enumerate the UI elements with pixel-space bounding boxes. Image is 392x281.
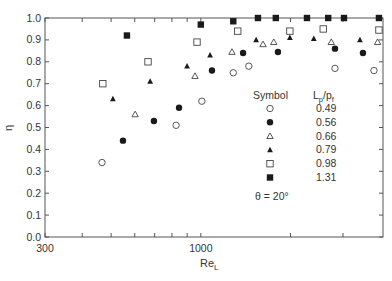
open-square-marker <box>320 26 326 32</box>
legend: Symbol Lp/pf 0.490.560.660.790.981.31 θ … <box>253 89 337 202</box>
filled-triangle-marker <box>253 37 259 42</box>
y-tick-label: 0.4 <box>26 143 41 155</box>
filled-circle-marker <box>120 137 126 143</box>
open-square-marker <box>100 81 106 87</box>
legend-value: 0.49 <box>316 102 337 114</box>
legend-header-symbol: Symbol <box>253 89 288 101</box>
y-tick-label: 0.5 <box>26 121 41 133</box>
open-circle-marker <box>246 63 252 69</box>
x-tick-label: 300 <box>36 242 54 254</box>
filled-square-marker <box>198 21 204 27</box>
filled-triangle-marker <box>287 35 293 40</box>
filled-circle-marker <box>151 118 157 124</box>
filled-square-marker <box>376 15 382 21</box>
filled-triangle-marker <box>147 78 153 83</box>
open-square-marker <box>376 27 382 33</box>
y-tick-label: 0.7 <box>26 77 41 89</box>
filled-triangle-marker <box>110 96 116 101</box>
open-circle-marker <box>230 70 236 76</box>
open-circle-marker <box>99 159 105 165</box>
open-triangle-marker <box>192 73 198 79</box>
x-tick-label: 1000 <box>189 242 213 254</box>
filled-circle-marker <box>240 50 246 56</box>
open-triangle-marker <box>132 111 138 117</box>
open-square-marker <box>287 28 293 34</box>
filled-circle-marker <box>209 67 215 73</box>
legend-filled-square-icon <box>267 174 273 180</box>
y-tick-label: 0.0 <box>26 231 41 243</box>
open-circle-marker <box>332 65 338 71</box>
open-triangle-marker <box>260 41 266 47</box>
legend-value: 0.66 <box>316 130 337 142</box>
filled-triangle-marker <box>311 36 317 41</box>
legend-filled-triangle-icon <box>267 147 273 152</box>
open-circle-marker <box>199 98 205 104</box>
legend-filled-circle-icon <box>267 119 273 125</box>
filled-triangle-marker <box>357 37 363 42</box>
data-points <box>99 15 382 166</box>
open-square-marker <box>145 59 151 65</box>
legend-open-square-icon <box>267 161 273 167</box>
x-axis-label: ReL <box>200 257 219 272</box>
y-tick-label: 1.0 <box>26 12 41 24</box>
legend-value: 0.56 <box>316 116 337 128</box>
open-circle-marker <box>173 122 179 128</box>
filled-square-marker <box>273 15 279 21</box>
legend-open-triangle-icon <box>267 133 273 139</box>
filled-circle-marker <box>360 50 366 56</box>
filled-circle-marker <box>275 49 281 55</box>
legend-open-circle-icon <box>267 105 273 111</box>
filled-circle-marker <box>332 45 338 51</box>
y-tick-label: 0.2 <box>26 187 41 199</box>
y-axis-label: η <box>2 125 14 131</box>
filled-square-marker <box>230 18 236 24</box>
legend-value: 1.31 <box>316 171 337 183</box>
open-square-marker <box>235 28 241 34</box>
filled-circle-marker <box>176 105 182 111</box>
legend-value: 0.79 <box>316 143 337 155</box>
y-tick-label: 0.3 <box>26 165 41 177</box>
theta-annotation: θ = 20° <box>255 190 289 202</box>
open-square-marker <box>194 39 200 45</box>
filled-triangle-marker <box>207 52 213 57</box>
open-triangle-marker <box>229 49 235 55</box>
open-triangle-marker <box>271 39 277 45</box>
filled-square-marker <box>325 15 331 21</box>
y-tick-label: 0.8 <box>26 55 41 67</box>
open-circle-marker <box>371 67 377 73</box>
y-tick-label: 0.1 <box>26 209 41 221</box>
filled-square-marker <box>341 15 347 21</box>
filled-square-marker <box>304 15 310 21</box>
filled-square-marker <box>255 15 261 21</box>
open-triangle-marker <box>328 39 334 45</box>
legend-value: 0.98 <box>316 157 337 169</box>
x-axis: 3001000 <box>36 18 343 254</box>
y-tick-label: 0.9 <box>26 33 41 45</box>
filled-triangle-marker <box>184 63 190 68</box>
y-tick-label: 0.6 <box>26 99 41 111</box>
filled-square-marker <box>124 32 130 38</box>
chart: 0.00.10.20.30.40.50.60.70.80.91.0 300100… <box>0 0 392 281</box>
